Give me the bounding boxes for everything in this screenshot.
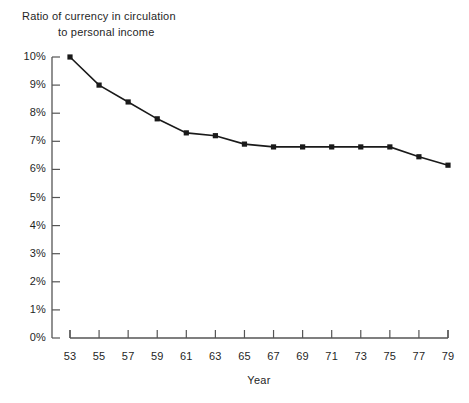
data-point-marker: [184, 130, 189, 135]
x-axis-tick-label: 77: [406, 350, 432, 362]
y-axis-tick-label: 3%: [12, 247, 46, 259]
y-axis-tick-label: 9%: [12, 78, 46, 90]
y-axis-tick-label: 4%: [12, 219, 46, 231]
data-point-marker: [67, 54, 72, 59]
data-point-marker: [445, 163, 450, 168]
y-axis-tick-label: 5%: [12, 191, 46, 203]
data-point-marker: [300, 144, 305, 149]
data-point-marker: [155, 116, 160, 121]
x-axis-title: Year: [219, 374, 299, 386]
x-axis-tick-label: 79: [435, 350, 461, 362]
x-axis-tick-label: 59: [144, 350, 170, 362]
y-axis-tick-label: 2%: [12, 275, 46, 287]
data-point-marker: [96, 83, 101, 88]
x-axis: [70, 330, 448, 338]
x-axis-tick-label: 55: [86, 350, 112, 362]
x-axis-tick-label: 65: [231, 350, 257, 362]
x-axis-tick-label: 71: [319, 350, 345, 362]
x-axis-tick-label: 73: [348, 350, 374, 362]
x-axis-tick-label: 61: [173, 350, 199, 362]
chart-plot-area: [0, 0, 469, 403]
x-axis-tick-label: 75: [377, 350, 403, 362]
data-point-marker: [387, 144, 392, 149]
data-point-marker: [271, 144, 276, 149]
y-axis-tick-label: 7%: [12, 134, 46, 146]
data-point-marker: [242, 142, 247, 147]
y-axis-tick-label: 10%: [12, 50, 46, 62]
x-axis-tick-label: 63: [202, 350, 228, 362]
x-axis-tick-label: 67: [261, 350, 287, 362]
x-axis-tick-label: 57: [115, 350, 141, 362]
data-point-marker: [213, 133, 218, 138]
y-axis-tick-label: 6%: [12, 162, 46, 174]
y-axis: [52, 57, 60, 338]
data-point-markers: [67, 54, 450, 167]
data-point-marker: [126, 99, 131, 104]
data-point-marker: [358, 144, 363, 149]
y-axis-tick-label: 0%: [12, 331, 46, 343]
x-axis-tick-label: 53: [57, 350, 83, 362]
chart-figure: Ratio of currency in circulation to pers…: [0, 0, 469, 403]
data-point-marker: [416, 154, 421, 159]
y-axis-tick-label: 8%: [12, 106, 46, 118]
y-axis-tick-label: 1%: [12, 303, 46, 315]
x-axis-tick-label: 69: [290, 350, 316, 362]
data-point-marker: [329, 144, 334, 149]
